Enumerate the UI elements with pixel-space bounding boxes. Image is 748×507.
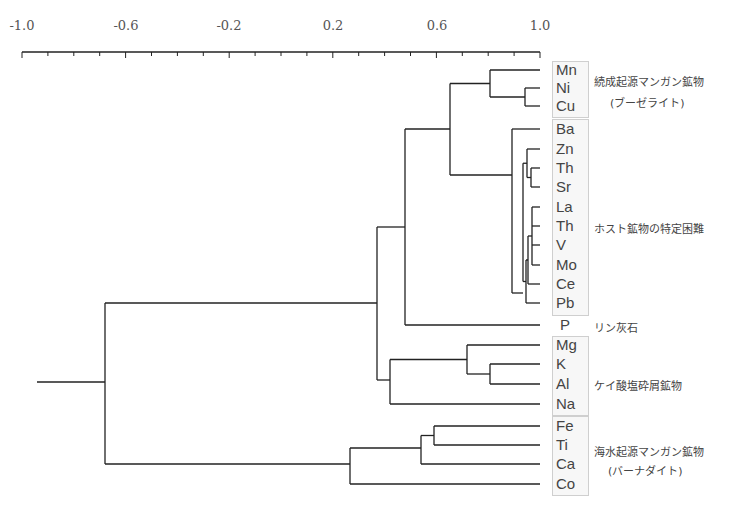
leaf-label: Ca	[556, 455, 575, 473]
group-label-unknown-host: ホスト鉱物の特定困難	[594, 220, 704, 236]
group-label-hydrogenetic: 海水起源マンガン鉱物	[594, 443, 704, 459]
leaf-label: Mo	[556, 256, 577, 274]
leaf-label: Mn	[556, 61, 577, 79]
group-sublabel-hydrogenetic: (バーナダイト)	[608, 462, 683, 478]
leaf-label: Cu	[556, 97, 575, 115]
leaf-label: Zn	[556, 140, 574, 158]
x-tick-label: 1.0	[530, 18, 551, 33]
group-label-silicate: ケイ酸塩砕屑鉱物	[594, 377, 682, 393]
x-tick-label: -0.2	[216, 18, 241, 33]
leaf-label: Th	[556, 159, 574, 177]
leaf-label: P	[560, 316, 570, 334]
leaf-label: La	[556, 198, 573, 216]
leaf-label: Mg	[556, 336, 577, 354]
x-tick-label: -0.6	[113, 18, 138, 33]
x-tick-label: -1.0	[9, 18, 34, 33]
x-tick-label: 0.6	[427, 18, 448, 33]
leaf-label: Pb	[556, 294, 574, 312]
group-label-diagenetic: 続成起源マンガン鉱物	[594, 73, 704, 89]
leaf-label: Ni	[556, 79, 570, 97]
leaf-label: Sr	[556, 178, 571, 196]
group-sublabel-diagenetic: (ブーゼライト)	[610, 94, 685, 110]
leaf-label: Co	[556, 475, 575, 493]
leaf-label: Ce	[556, 275, 575, 293]
leaf-label: K	[556, 355, 566, 373]
leaf-label: Ba	[556, 120, 574, 138]
leaf-label: Al	[556, 375, 569, 393]
group-label-apatite: リン灰石	[594, 319, 638, 335]
leaf-label: Ti	[556, 436, 568, 454]
leaf-label: Na	[556, 395, 575, 413]
leaf-label: Fe	[556, 417, 574, 435]
dendrogram-chart: -1.0-0.6-0.20.20.61.0 MnNiCuBaZnThSrLaTh…	[0, 0, 748, 507]
leaf-label: V	[556, 236, 566, 254]
x-tick-label: 0.2	[323, 18, 344, 33]
leaf-label: Th	[556, 217, 574, 235]
